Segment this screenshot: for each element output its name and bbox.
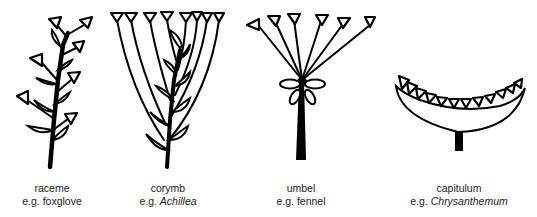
caption-capitulum: capitulum e.g. Chrysanthemum bbox=[389, 182, 529, 208]
caption-corymb-title: corymb bbox=[98, 182, 238, 195]
raceme-drawing bbox=[17, 17, 92, 167]
caption-corymb-example: e.g. Achillea bbox=[98, 195, 238, 208]
caption-capitulum-title: capitulum bbox=[389, 182, 529, 195]
caption-umbel: umbel e.g. fennel bbox=[231, 182, 371, 208]
umbel-drawing bbox=[247, 14, 375, 160]
caption-umbel-title: umbel bbox=[231, 182, 371, 195]
caption-umbel-example: e.g. fennel bbox=[231, 195, 371, 208]
corymb-drawing bbox=[111, 12, 224, 167]
caption-capitulum-example: e.g. Chrysanthemum bbox=[389, 195, 529, 208]
caption-corymb: corymb e.g. Achillea bbox=[98, 182, 238, 208]
capitulum-drawing bbox=[396, 76, 525, 151]
